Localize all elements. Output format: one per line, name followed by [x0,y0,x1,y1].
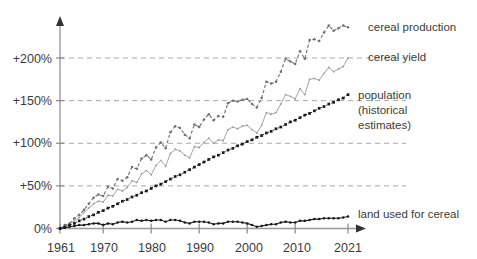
data-point [313,110,316,113]
data-point [328,66,330,68]
data-point [189,157,191,159]
data-point [88,203,91,206]
data-point [68,226,71,229]
data-point [222,222,225,225]
data-point [98,200,100,202]
data-point [102,201,104,203]
data-point [260,134,263,137]
data-point [299,88,301,90]
data-point [92,214,95,217]
data-point [347,57,349,59]
data-point [164,147,167,150]
data-point [265,224,268,227]
y-tick-label-0: 0% [34,222,52,236]
data-point [232,99,235,102]
data-point [318,107,321,110]
data-point [227,102,230,105]
data-point [251,224,254,227]
data-point [275,127,278,130]
data-point [260,225,263,228]
data-point [164,180,167,183]
data-point [294,119,297,122]
data-point [314,78,316,80]
data-point [107,185,110,188]
x-tick-label-2010: 2010 [283,241,311,255]
data-point [232,126,234,128]
data-point [323,31,326,34]
data-point [155,219,158,222]
data-point [280,103,282,105]
y-axis-tick-labels: 0% +50% +100% +150% +200% [13,52,52,236]
data-point [323,105,326,108]
data-point [251,138,254,141]
chart-container: 0% +50% +100% +150% +200% 1961 1970 1980… [0,0,477,259]
data-point [332,29,335,32]
data-point [92,222,95,225]
data-point [332,101,335,104]
data-point [217,222,220,225]
legend-label-population-line1: population [358,89,411,101]
data-point [111,205,114,208]
data-point [164,220,167,223]
data-point [304,58,307,61]
data-point [116,202,119,205]
data-point [337,98,340,101]
data-point [318,218,321,221]
data-point [313,218,316,221]
data-point [131,166,134,169]
data-point [78,224,81,227]
data-point [102,224,105,227]
data-point [165,165,167,167]
data-point [169,219,172,222]
legend-label-land-used-for-cereal: land used for cereal [358,208,459,220]
data-point [256,132,258,134]
data-point [112,223,115,226]
data-point [290,95,292,97]
data-point [212,119,215,122]
y-axis-arrow-icon [56,16,64,26]
data-point [83,209,86,212]
data-point [92,197,95,200]
data-point [241,99,244,102]
data-point [285,94,287,96]
data-point [174,125,177,128]
data-point [275,81,278,84]
series-population-historical-estimates- [59,93,350,230]
data-point [289,121,292,124]
data-point [261,124,263,126]
data-point [304,94,306,96]
data-point [83,211,85,213]
data-point [160,219,163,222]
data-point [155,165,157,167]
data-point [284,123,287,126]
data-point [116,221,119,224]
data-point [270,113,272,115]
data-point [83,218,86,221]
x-tick-label-2000: 2000 [235,241,263,255]
data-point [145,219,148,222]
x-tick-label-1970: 1970 [90,241,118,255]
data-point [246,140,249,143]
data-point [159,183,162,186]
data-point [136,182,138,184]
data-point [275,223,278,226]
data-point [170,153,172,155]
data-point [131,180,133,182]
data-point [333,71,335,73]
data-point [198,163,201,166]
data-point [73,222,76,225]
data-point [174,175,177,178]
y-tick-label-200: +200% [13,52,52,66]
data-point [88,207,90,209]
data-point [222,151,225,154]
x-tick-label-2021: 2021 [334,241,362,255]
x-axis-arrow-icon [356,225,366,233]
data-point [179,220,182,223]
data-point [146,170,148,172]
data-point [145,154,148,157]
data-point [208,137,210,139]
data-point [347,26,350,29]
data-point [280,221,283,224]
data-point [198,220,201,223]
data-point [328,217,331,220]
